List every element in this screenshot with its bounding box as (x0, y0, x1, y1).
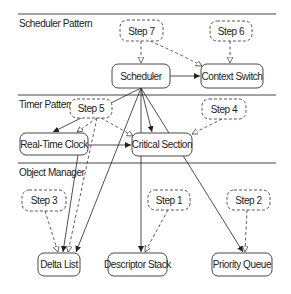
step-6: Step 6 (210, 21, 252, 41)
dep-step3-delta-list (45, 211, 58, 252)
step-4-label: Step 4 (211, 104, 238, 115)
dep-step2-priority-queue (245, 210, 247, 252)
step-5-label: Step 5 (78, 103, 105, 114)
diagram-canvas: Scheduler Pattern Timer Pattern Object M… (0, 0, 291, 294)
node-real-time-clock-label: Real-Time Clock (20, 139, 89, 150)
step-3-label: Step 3 (31, 195, 58, 206)
node-context-switch: Context Switch (201, 64, 263, 88)
step-1-label: Step 1 (156, 195, 183, 206)
step-6-label: Step 6 (218, 26, 245, 37)
step-5: Step 5 (70, 99, 112, 118)
dep-step7-context-switch (150, 41, 202, 66)
step-7-label: Step 7 (128, 26, 155, 37)
node-scheduler-label: Scheduler (120, 71, 162, 82)
step-7: Step 7 (120, 20, 163, 41)
node-priority-queue: Priority Queue (212, 253, 272, 276)
node-descriptor-stack: Descriptor Stack (104, 253, 172, 276)
dep-step4-critical-section (192, 119, 222, 134)
step-4: Step 4 (202, 99, 246, 119)
node-real-time-clock: Real-Time Clock (20, 133, 89, 155)
node-delta-list: Delta List (38, 253, 80, 276)
node-descriptor-stack-label: Descriptor Stack (104, 259, 172, 270)
dep-step5-real-time-clock (77, 118, 97, 132)
node-critical-section: Critical Section (132, 133, 192, 156)
step-1: Step 1 (148, 190, 190, 210)
node-context-switch-label: Context Switch (201, 71, 262, 82)
node-delta-list-label: Delta List (40, 259, 78, 270)
lane-label-scheduler-pattern: Scheduler Pattern (19, 18, 92, 29)
node-critical-section-label: Critical Section (132, 139, 192, 150)
dep-step1-descriptor-stack (145, 210, 168, 252)
step-3: Step 3 (22, 190, 66, 211)
step-2: Step 2 (227, 190, 270, 210)
step-2-label: Step 2 (235, 195, 262, 206)
node-scheduler: Scheduler (112, 64, 170, 88)
node-priority-queue-label: Priority Queue (213, 259, 272, 270)
lane-label-timer-pattern: Timer Pattern (19, 99, 74, 110)
